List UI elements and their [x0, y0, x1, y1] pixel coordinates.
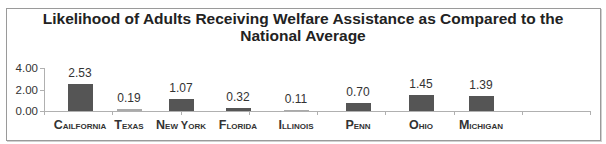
y-axis [44, 68, 45, 111]
y-tick [40, 90, 44, 91]
category-label: Michigan [436, 119, 526, 131]
value-label: 0.19 [99, 92, 159, 105]
y-tick-label: 4.00 [8, 62, 38, 74]
x-tick [181, 111, 182, 115]
chart-title-line-2: National Average [0, 27, 606, 44]
bar-texas [117, 109, 142, 111]
chart-title-line-1: Likelihood of Adults Receiving Welfare A… [0, 10, 606, 27]
value-label: 0.70 [328, 86, 388, 99]
value-label: 1.07 [151, 82, 211, 95]
x-tick [590, 111, 591, 115]
bar-florida [226, 108, 251, 111]
x-tick [317, 111, 318, 115]
bar-penn [346, 103, 371, 111]
chart-title: Likelihood of Adults Receiving Welfare A… [0, 10, 606, 44]
value-label: 2.53 [50, 67, 110, 80]
value-label: 0.32 [208, 91, 268, 104]
bar-cailfornia [68, 84, 93, 111]
value-label: 1.45 [391, 78, 451, 91]
x-tick [454, 111, 455, 115]
x-tick [385, 111, 386, 115]
bar-new-york [169, 99, 194, 111]
x-tick [44, 111, 45, 115]
x-tick [522, 111, 523, 115]
value-label: 1.39 [451, 79, 511, 92]
x-tick [249, 111, 250, 115]
y-tick-label: 0.00 [8, 105, 38, 117]
value-label: 0.11 [266, 93, 326, 106]
bar-ohio [409, 95, 434, 111]
x-tick [112, 111, 113, 115]
bar-illinois [284, 110, 309, 112]
bar-michigan [469, 96, 494, 111]
y-tick [40, 68, 44, 69]
y-tick-label: 2.00 [8, 84, 38, 96]
